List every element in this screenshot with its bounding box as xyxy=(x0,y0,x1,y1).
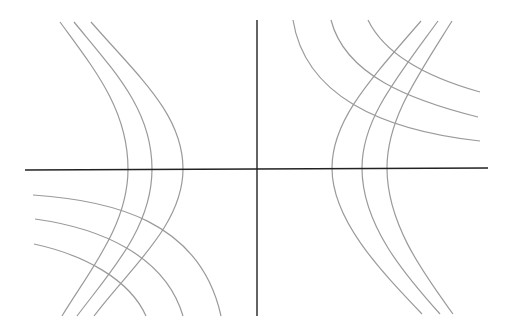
background xyxy=(0,0,512,334)
hyperbola-diagram xyxy=(0,0,512,334)
